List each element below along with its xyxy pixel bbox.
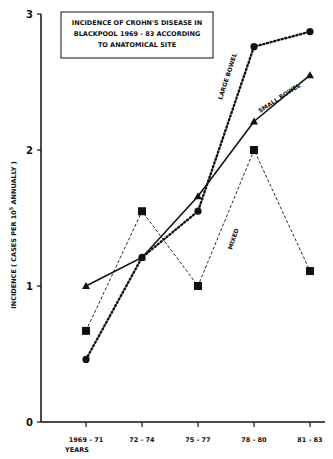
y-tick-label: 3 <box>26 9 33 20</box>
circle-marker <box>82 356 89 363</box>
x-tick-label: 72 - 74 <box>129 436 155 444</box>
annotation-small-bowel: SMALL BOWEL <box>257 81 302 114</box>
chart-title-line: INCIDENCE OF CROHN'S DISEASE IN <box>72 19 202 27</box>
chart-title-line: BLACKPOOL 1969 - 83 ACCORDING <box>74 30 200 38</box>
triangle-marker <box>306 71 314 78</box>
square-marker <box>306 267 314 275</box>
circle-marker <box>194 208 201 215</box>
annotation-mixed: MIXED <box>226 227 239 250</box>
triangle-marker <box>82 282 90 289</box>
square-marker <box>250 146 258 154</box>
annotation-large-bowel: LARGE BOWEL <box>216 52 238 100</box>
circle-marker <box>306 28 313 35</box>
x-tick-label: 78 - 80 <box>241 436 267 444</box>
x-tick-label: 1969 - 71 <box>69 436 104 444</box>
series-line-mixed <box>86 150 310 331</box>
y-tick-label: 2 <box>26 145 33 156</box>
square-marker <box>82 327 90 335</box>
y-tick-label: 1 <box>26 281 33 292</box>
chart-title-line: TO ANATOMICAL SITE <box>98 41 176 49</box>
x-tick-label: 75 - 77 <box>185 436 210 444</box>
square-marker <box>138 207 146 215</box>
y-tick-label: 0 <box>26 417 33 428</box>
circle-marker <box>250 43 257 50</box>
series-line-small-bowel <box>86 75 310 286</box>
x-axis-label: YEARS <box>64 446 89 454</box>
square-marker <box>194 282 202 290</box>
y-axis-label: INCIDENCE ( CASES PER 105 ANNUALLY ) <box>8 161 18 308</box>
line-chart: 01231969 - 7172 - 7475 - 7778 - 8081 - 8… <box>0 0 333 459</box>
x-tick-label: 81 - 83 <box>297 436 322 444</box>
